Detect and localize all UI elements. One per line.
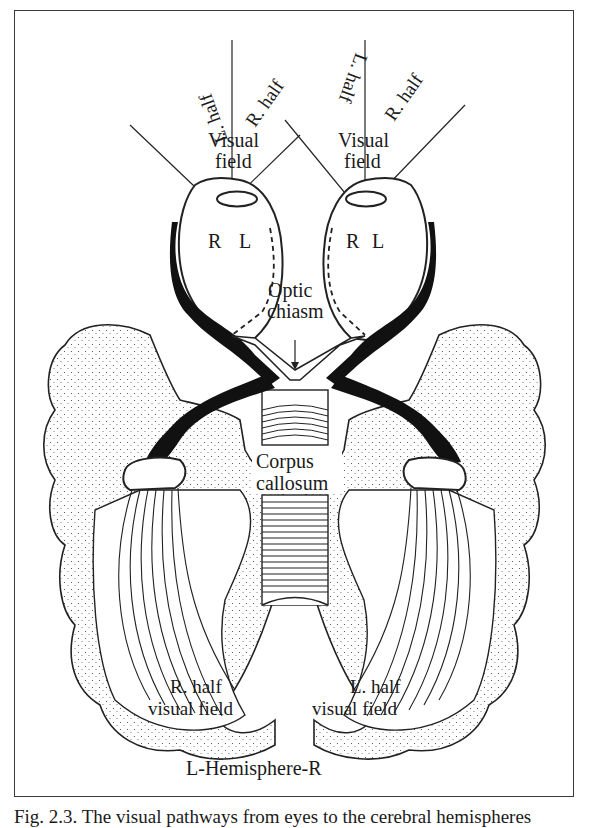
- corpus-callosum: [262, 390, 328, 605]
- corpus-callosum-label-1: Corpus: [256, 450, 314, 473]
- right-eye-l-label: L: [372, 230, 384, 252]
- left-field-label: field: [215, 150, 252, 172]
- left-lateral-geniculate: [123, 458, 185, 490]
- right-field-r-half-label: R. half: [380, 69, 427, 124]
- figure-caption: Fig. 2.3. The visual pathways from eyes …: [14, 806, 531, 828]
- left-hemisphere-field-label-2: visual field: [148, 698, 233, 719]
- right-visual-label: Visual: [338, 129, 389, 151]
- left-field-r-half-label: R. half: [241, 75, 288, 130]
- left-eye-l-label: L: [239, 230, 251, 252]
- left-eye-lens: [217, 192, 257, 207]
- right-field-l-half-label: L. half: [335, 51, 372, 106]
- right-hemisphere-field-label-2: visual field: [312, 698, 397, 719]
- optic-chiasm-label-1: Optic: [268, 279, 313, 302]
- right-lateral-geniculate: [404, 458, 466, 490]
- corpus-callosum-label-2: callosum: [256, 472, 329, 494]
- right-eye-r-label: R: [346, 230, 360, 252]
- optic-chiasm-label-2: chiasm: [267, 300, 324, 322]
- right-eye-lens: [346, 192, 386, 207]
- left-visual-label: Visual: [208, 129, 259, 151]
- right-hemisphere-field-label-1: L. half: [350, 676, 401, 697]
- left-hemisphere-field-label-1: R. half: [170, 676, 222, 697]
- right-field-label: field: [344, 150, 381, 172]
- hemisphere-axis-label: L-Hemisphere-R: [186, 757, 322, 780]
- left-eye-r-label: R: [208, 230, 222, 252]
